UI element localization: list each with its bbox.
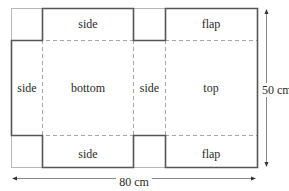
fold-lines (11, 40, 257, 136)
height-label: 50 cm (262, 83, 289, 97)
label-side-bottom: side (78, 147, 97, 161)
label-bottom: bottom (71, 81, 106, 95)
label-side-middle: side (140, 81, 159, 95)
width-label: 80 cm (119, 175, 149, 189)
label-top: top (203, 81, 218, 95)
label-side-left: side (17, 81, 36, 95)
label-side-top: side (78, 17, 97, 31)
box-net-diagram: side flap side bottom side top side flap… (0, 0, 289, 191)
label-flap-top: flap (202, 17, 221, 31)
net-outline (12, 9, 258, 168)
label-flap-bottom: flap (202, 147, 221, 161)
